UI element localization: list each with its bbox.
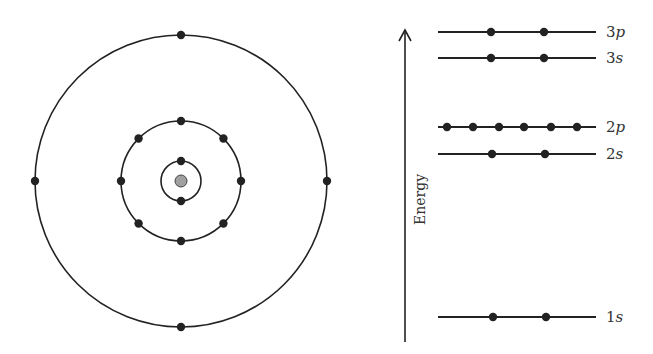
electron-dot [117,177,125,185]
bohr-model [31,31,331,331]
energy-level-3s: 3s [438,49,624,67]
level-label: 2p [606,118,626,136]
electron-dot [488,150,496,158]
electron-dot [547,123,555,131]
electron-dot [177,157,185,165]
electron-dot [31,177,39,185]
energy-level-diagram: Energy3p3s2p2s1s [399,23,626,342]
energy-level-2p: 2p [438,118,626,136]
level-label: 3s [606,49,624,67]
electron-dot [542,313,550,321]
electron-dot [487,54,495,62]
electron-dot [540,28,548,36]
energy-level-2s: 2s [438,145,624,163]
electron-dot [469,123,477,131]
electron-dot [541,150,549,158]
electron-dot [219,134,227,142]
level-label: 3p [606,23,626,41]
electron-dot [177,197,185,205]
electron-dot [237,177,245,185]
electron-dot [177,31,185,39]
electron-dot [177,323,185,331]
level-label: 1s [606,308,624,326]
energy-axis-label: Energy [412,174,428,225]
electron-dot [134,134,142,142]
electron-dot [177,117,185,125]
energy-level-3p: 3p [438,23,626,41]
nucleus [175,175,187,187]
electron-dot [487,28,495,36]
electron-dot [219,219,227,227]
electron-dot [323,177,331,185]
electron-dot [134,219,142,227]
electron-dot [520,123,528,131]
electron-dot [573,123,581,131]
energy-level-1s: 1s [438,308,624,326]
electron-dot [177,237,185,245]
electron-dot [540,54,548,62]
level-label: 2s [606,145,624,163]
electron-dot [443,123,451,131]
electron-dot [495,123,503,131]
atom-diagram: Energy3p3s2p2s1s [0,0,653,354]
electron-dot [489,313,497,321]
